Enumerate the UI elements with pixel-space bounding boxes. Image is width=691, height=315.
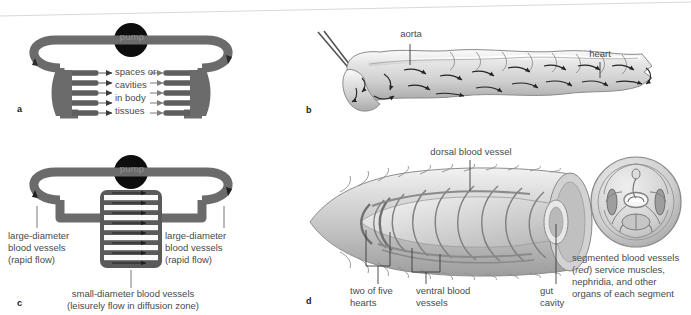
panel-c-right-label-line-2: blood vessels: [165, 242, 223, 253]
panel-c-closed-circulation: pump large-diameter blood vessels (rapid…: [0, 146, 300, 306]
panel-d-caption-line-2: (red) service muscles,: [572, 264, 665, 275]
panel-d-caption-italic-red: red: [575, 264, 589, 275]
panel-c-left-label-line-3: (rapid flow): [8, 254, 55, 265]
figure-root: pump spaces or cavities in body tissues …: [0, 0, 691, 315]
panel-d-letter: d: [306, 296, 312, 306]
panel-b-letter: b: [306, 105, 312, 115]
panel-a-right-inflow-arrows: [150, 73, 163, 113]
panel-a-tissue-label-line-1: spaces or: [115, 66, 156, 77]
panel-d-label-hearts-line-2: hearts: [350, 297, 376, 308]
panel-d-label-ventral-line-1: ventral blood: [416, 285, 470, 296]
panel-d-label-hearts-line-1: two of five: [350, 285, 393, 296]
panel-a-tissue-label-line-3: in body: [115, 92, 146, 103]
panel-a-pump-label: pump: [112, 31, 152, 42]
panel-b-label-heart: heart: [572, 48, 628, 59]
panel-d-cross-section: [591, 157, 681, 247]
panel-c-left-label-line-2: blood vessels: [8, 242, 66, 253]
panel-c-capillary-bed: [100, 190, 162, 268]
panel-c-right-label-line-3: (rapid flow): [165, 254, 212, 265]
panel-c-bottom-label-line-2: (leisurely flow in diffusion zone): [38, 300, 228, 311]
panel-c-left-label-line-1: large-diameter: [8, 230, 69, 241]
panel-d-caption-line-4: organs of each segment: [572, 288, 674, 299]
panel-d-label-gut-line-2: cavity: [540, 297, 564, 308]
panel-a-left-branches: [52, 70, 97, 116]
panel-b-insect-circulation: aorta heart: [300, 12, 691, 128]
panel-c-right-label-line-1: large-diameter: [165, 230, 226, 241]
panel-b-diagram: [300, 12, 691, 128]
panel-d-earthworm-circulation: dorsal blood vessel two of five hearts v…: [300, 144, 691, 315]
panel-d-caption-line-3: nephridia, and other: [572, 276, 657, 287]
panel-a-tissue-label-line-4: tissues: [115, 105, 145, 116]
panel-d-caption-line-1: segmented blood vessels: [572, 252, 679, 263]
panel-a-right-branches: [166, 70, 211, 116]
panel-a-left-outflow-arrows: [99, 73, 112, 113]
panel-a-letter: a: [17, 104, 22, 114]
panel-c-letter: c: [17, 298, 22, 308]
panel-a-open-circulation: pump spaces or cavities in body tissues: [0, 14, 300, 128]
panel-d-label-gut-line-1: gut: [540, 285, 553, 296]
panel-d-label-ventral-line-2: vessels: [416, 297, 448, 308]
panel-a-tissue-label-line-2: cavities: [115, 79, 147, 90]
panel-d-label-dorsal-vessel: dorsal blood vessel: [410, 146, 532, 157]
panel-c-bottom-label-line-1: small-diameter blood vessels: [38, 288, 228, 299]
panel-b-label-aorta: aorta: [380, 28, 442, 39]
panel-c-pump-label: pump: [112, 163, 152, 174]
